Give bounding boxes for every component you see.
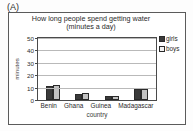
bar-girls-guinea bbox=[105, 96, 112, 100]
y-axis-tick-label: 30 bbox=[27, 59, 34, 66]
legend-swatch-filled-icon bbox=[159, 36, 165, 42]
y-axis-title: minutes bbox=[13, 58, 20, 80]
chart-title: How long people spend getting water (min… bbox=[9, 15, 185, 31]
y-axis-tick bbox=[35, 63, 38, 64]
x-axis-label: Madagascar bbox=[118, 102, 153, 109]
bar-girls-madagascar bbox=[134, 89, 141, 100]
gridline bbox=[38, 50, 156, 51]
chart-legend: girlsboys bbox=[159, 35, 180, 52]
gridline bbox=[38, 75, 156, 76]
legend-label: boys bbox=[166, 45, 180, 52]
chart-frame: How long people spend getting water (min… bbox=[8, 12, 186, 125]
x-axis-label: Ghana bbox=[64, 102, 83, 109]
y-axis-tick bbox=[35, 50, 38, 51]
bar-group bbox=[105, 38, 119, 100]
bar-group bbox=[75, 38, 89, 100]
gridline bbox=[38, 63, 156, 64]
y-axis-tick-label: 40 bbox=[27, 47, 34, 54]
y-axis-tick-label: 0 bbox=[31, 97, 34, 104]
legend-item-girls: girls bbox=[159, 35, 180, 42]
bar-group bbox=[46, 38, 60, 100]
legend-item-boys: boys bbox=[159, 45, 180, 52]
x-axis-label: Benin bbox=[41, 102, 57, 109]
legend-swatch-outline-icon bbox=[159, 46, 165, 52]
bar-boys-madagascar bbox=[141, 89, 148, 100]
chart-title-line2: (minutes a day) bbox=[13, 23, 169, 31]
plot-area: 01020304050 bbox=[37, 37, 157, 101]
bar-group bbox=[134, 38, 148, 100]
bar-girls-ghana bbox=[75, 94, 82, 100]
bar-boys-ghana bbox=[82, 93, 89, 100]
x-axis-labels: BeninGhanaGuineaMadagascar bbox=[37, 102, 157, 109]
gridline bbox=[38, 88, 156, 89]
y-axis-tick bbox=[35, 75, 38, 76]
x-axis-title: country bbox=[37, 111, 157, 118]
y-axis-tick bbox=[35, 88, 38, 89]
panel-label: (A) bbox=[7, 2, 19, 12]
y-axis-tick-label: 20 bbox=[27, 72, 34, 79]
bar-groups bbox=[38, 38, 156, 100]
x-axis-label: Guinea bbox=[90, 102, 111, 109]
legend-label: girls bbox=[166, 35, 178, 42]
y-axis-tick-label: 50 bbox=[27, 35, 34, 42]
gridline bbox=[38, 38, 156, 39]
bar-boys-guinea bbox=[112, 96, 119, 100]
y-axis-tick bbox=[35, 38, 38, 39]
y-axis-tick-label: 10 bbox=[27, 84, 34, 91]
y-axis-tick bbox=[35, 100, 38, 101]
chart-panel: (A) How long people spend getting water … bbox=[0, 0, 193, 131]
